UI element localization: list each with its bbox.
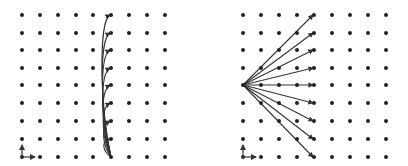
grid-dot [295,101,299,105]
grid-dot [127,137,131,141]
grid-dot [74,48,78,52]
grid-dot [127,66,131,70]
grid-dot [348,31,352,35]
grid-dot [348,48,352,52]
grid-dot [277,155,281,159]
grid-dot [20,137,24,141]
grid-dot [330,66,334,70]
grid-dot [366,155,370,159]
grid-dot [384,137,388,141]
grid-dot [109,31,113,35]
grid-dot [384,83,388,87]
grid-dot [348,83,352,87]
grid-dot [163,155,167,159]
grid-dot [241,137,245,141]
grid-dot [145,137,149,141]
grid-dot [109,83,113,87]
right-panel-straight-rays [241,13,388,159]
grid-dot [312,13,316,17]
grid-dot [145,101,149,105]
grid-dot [330,31,334,35]
grid-dot [312,155,316,159]
grid-dot [127,155,131,159]
grid-dot [74,137,78,141]
grid-dot [38,13,42,17]
grid-dot [38,31,42,35]
grid-dot [295,66,299,70]
grid-dot [241,66,245,70]
grid-dot [163,119,167,123]
grid-dot [348,13,352,17]
grid-dot [384,155,388,159]
grid-dot [366,101,370,105]
grid-dot [91,137,95,141]
grid-dot [277,13,281,17]
grid-dot [145,83,149,87]
grid-dot [109,101,113,105]
grid-dot [277,31,281,35]
trajectory-path [243,85,313,139]
grid-dot [91,101,95,105]
trajectory-path [243,68,313,85]
grid-dot [277,101,281,105]
grid-dot [330,101,334,105]
grid-dot [384,101,388,105]
grid-dot [241,48,245,52]
grid-dot [295,83,299,87]
grid-dot [56,66,60,70]
grid-dot [91,13,95,17]
trajectory-path [243,33,313,85]
grid-dot [74,119,78,123]
grid-dot [241,31,245,35]
grid-dot [163,13,167,17]
grid-dot [91,48,95,52]
grid-dot [38,48,42,52]
grid-dot [127,101,131,105]
grid-dot [259,13,263,17]
grid-dot [259,48,263,52]
grid-dot [127,119,131,123]
grid-dot [145,66,149,70]
grid-dot [163,31,167,35]
grid-dot [277,83,281,87]
grid-dot [38,83,42,87]
grid-dot [127,13,131,17]
grid-dot [366,83,370,87]
grid-dot [145,119,149,123]
grid-dot [38,66,42,70]
grid-dot [295,31,299,35]
grid-dot [145,31,149,35]
grid-dot [20,66,24,70]
grid-dot [20,101,24,105]
grid-dot [56,31,60,35]
grid-dot [127,83,131,87]
grid-dot [56,48,60,52]
grid-dot [91,119,95,123]
grid-dot [312,119,316,123]
grid-dot [277,137,281,141]
grid-dot [259,101,263,105]
grid-dot [384,48,388,52]
grid-dot [74,31,78,35]
grid-dot [163,83,167,87]
grid-dot [109,48,113,52]
grid-dot [295,137,299,141]
grid-dot [330,48,334,52]
grid-dot [20,48,24,52]
grid-dot [109,155,113,159]
grid-dot [241,119,245,123]
grid-dot [127,31,131,35]
grid-dot [56,13,60,17]
grid-dot [91,83,95,87]
grid-dot [277,119,281,123]
grid-dot [295,119,299,123]
grid-dot [145,48,149,52]
grid-dot [38,101,42,105]
grid-dot [241,83,245,87]
grid-dot [259,66,263,70]
grid-dot [241,13,245,17]
grid-dot [366,137,370,141]
grid-dot [312,101,316,105]
grid-dot [163,101,167,105]
grid-dot [74,101,78,105]
